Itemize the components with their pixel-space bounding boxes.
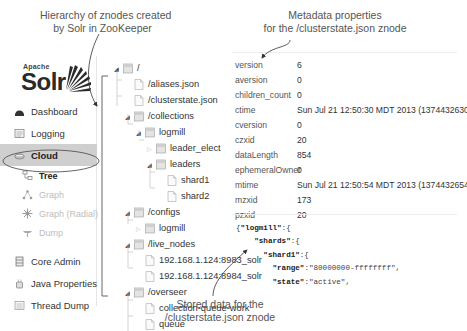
callout-hierarchy-line1: Hierarchy of znodes created (40, 9, 165, 22)
file-icon (145, 271, 155, 282)
json-line: "shards":{ (236, 235, 400, 248)
tree-node-label: leaders (170, 159, 201, 169)
meta-value: 173 (297, 195, 311, 205)
sidebar-item-java-properties[interactable]: Java Properties (0, 272, 97, 294)
metadata-bottom-divider (232, 214, 457, 215)
expand-toggle-icon[interactable]: ▷ (145, 145, 153, 152)
tree-node-shard2[interactable]: shard2 (156, 188, 209, 204)
tree-node-label: collection-queue-work (159, 303, 249, 313)
expand-toggle-icon[interactable]: ◢ (123, 289, 131, 296)
file-icon (167, 175, 177, 186)
sidebar-item-dashboard[interactable]: Dashboard (0, 100, 97, 122)
meta-value: 854 (297, 150, 311, 160)
znode-data-json: {"logmill":{ "shards":{ "shard1":{ "rang… (236, 222, 400, 289)
graph-icon (22, 189, 33, 200)
json-line: "range":"80000000-ffffffff", (236, 262, 400, 275)
meta-value: 6 (297, 60, 302, 70)
expand-toggle-icon[interactable]: ◢ (134, 129, 142, 136)
meta-key: children_count (235, 90, 297, 100)
sidebar-item-tree[interactable]: Tree (0, 166, 97, 185)
file-icon (167, 191, 177, 202)
meta-value: Sun Jul 21 12:50:30 MDT 2013 (1374432630… (297, 105, 467, 115)
tree-node-collection-queue-work[interactable]: collection-queue-work (134, 300, 249, 316)
file-icon (134, 95, 144, 106)
tree-node-label: leader_elect (170, 143, 221, 153)
meta-key: czxid (235, 135, 297, 145)
tree-node-root[interactable]: ◢ / (112, 60, 140, 76)
sidebar-item-thread-dump[interactable]: Thread Dump (0, 294, 97, 316)
sidebar-item-graph[interactable]: Graph (0, 185, 97, 204)
expand-toggle-icon[interactable]: ◢ (123, 241, 131, 248)
meta-value: 0 (297, 75, 302, 85)
dump-icon (22, 227, 33, 238)
sidebar-item-label: Logging (31, 128, 65, 139)
tree-node-label: logmill (159, 127, 185, 137)
sidebar-item-graph-radial[interactable]: Graph (Radial) (0, 204, 97, 223)
cloud-icon (14, 150, 25, 161)
expand-toggle-icon[interactable]: ◢ (123, 209, 131, 216)
tree-node-aliases-json[interactable]: /aliases.json (123, 76, 199, 92)
meta-value: 0 (297, 90, 302, 100)
tree-node-live-nodes[interactable]: ◢ /live_nodes (123, 236, 195, 252)
json-indent (236, 251, 263, 259)
meta-key: aversion (235, 75, 297, 85)
meta-row-mtime: mtimeSun Jul 21 12:50:54 MDT 2013 (13744… (235, 177, 467, 192)
json-line: {"logmill":{ (236, 222, 400, 235)
meta-key: mzxid (235, 195, 297, 205)
json-line: "state":"active", (236, 276, 400, 289)
core-admin-icon (14, 256, 25, 267)
expand-toggle-icon[interactable]: ◢ (112, 65, 120, 72)
logo-solr-text: Solr (21, 69, 66, 95)
sidebar-item-cloud[interactable]: Cloud (0, 144, 97, 166)
sidebar-item-label: Dashboard (31, 106, 77, 117)
tree-node-logmill[interactable]: ◢ logmill (134, 124, 185, 140)
expand-toggle-icon[interactable]: ▷ (134, 225, 142, 232)
sidebar: Dashboard Logging Cloud Tree Graph Graph… (0, 100, 97, 316)
tree-node-overseer[interactable]: ◢ /overseer (123, 284, 187, 300)
logging-icon (14, 128, 25, 139)
folder-icon (156, 159, 166, 170)
json-key: "shard1" (263, 251, 299, 259)
meta-value: 0 (297, 165, 302, 175)
json-key: "logmill" (241, 224, 282, 232)
folder-icon (123, 63, 133, 74)
sidebar-item-label: Java Properties (31, 278, 97, 289)
sidebar-gap (0, 242, 97, 250)
meta-key: version (235, 60, 297, 70)
tree-node-collections[interactable]: ◢ /collections (123, 108, 194, 124)
tree-node-leaders[interactable]: ◢ leaders (145, 156, 201, 172)
meta-row-children-count: children_count0 (235, 87, 302, 102)
tree-node-queue[interactable]: queue (134, 316, 185, 331)
sidebar-item-dump[interactable]: Dump (0, 223, 97, 242)
folder-icon (145, 127, 155, 138)
meta-row-ephemeralowner: ephemeralOwner0 (235, 162, 302, 177)
meta-value: 0 (297, 120, 302, 130)
folder-icon (134, 111, 144, 122)
tree-node-configs-logmill[interactable]: ▷ logmill (134, 220, 185, 236)
tree-node-clusterstate-json[interactable]: /clusterstate.json (123, 92, 218, 108)
json-rest: :{ (282, 224, 291, 232)
folder-icon (156, 143, 166, 154)
sidebar-item-logging[interactable]: Logging (0, 122, 97, 144)
meta-row-version: version6 (235, 57, 302, 72)
dashboard-icon (14, 106, 25, 117)
expand-toggle-icon[interactable]: ◢ (123, 113, 131, 120)
json-rest: :"80000000-ffffffff", (304, 264, 400, 272)
tree-node-shard1[interactable]: shard1 (156, 172, 209, 188)
sidebar-item-core-admin[interactable]: Core Admin (0, 250, 97, 272)
meta-row-ctime: ctimeSun Jul 21 12:50:30 MDT 2013 (13744… (235, 102, 467, 117)
tree-node-label: /clusterstate.json (148, 95, 218, 105)
tree-node-label: /configs (148, 207, 180, 217)
tree-node-label: queue (159, 319, 185, 329)
tree-node-label: /collections (148, 111, 194, 121)
java-properties-icon (14, 278, 25, 289)
tree-node-leader-elect[interactable]: ▷ leader_elect (145, 140, 221, 156)
tree-node-configs[interactable]: ◢ /configs (123, 204, 180, 220)
callout-hierarchy: Hierarchy of znodes created by Solr in Z… (40, 9, 165, 35)
folder-icon (134, 239, 144, 250)
expand-toggle-icon[interactable]: ◢ (145, 161, 153, 168)
file-icon (145, 303, 155, 314)
metadata-arrow (262, 40, 290, 58)
json-key: "range" (272, 264, 304, 272)
callout-metadata-line2: for the /clusterstate.json znode (250, 22, 420, 35)
